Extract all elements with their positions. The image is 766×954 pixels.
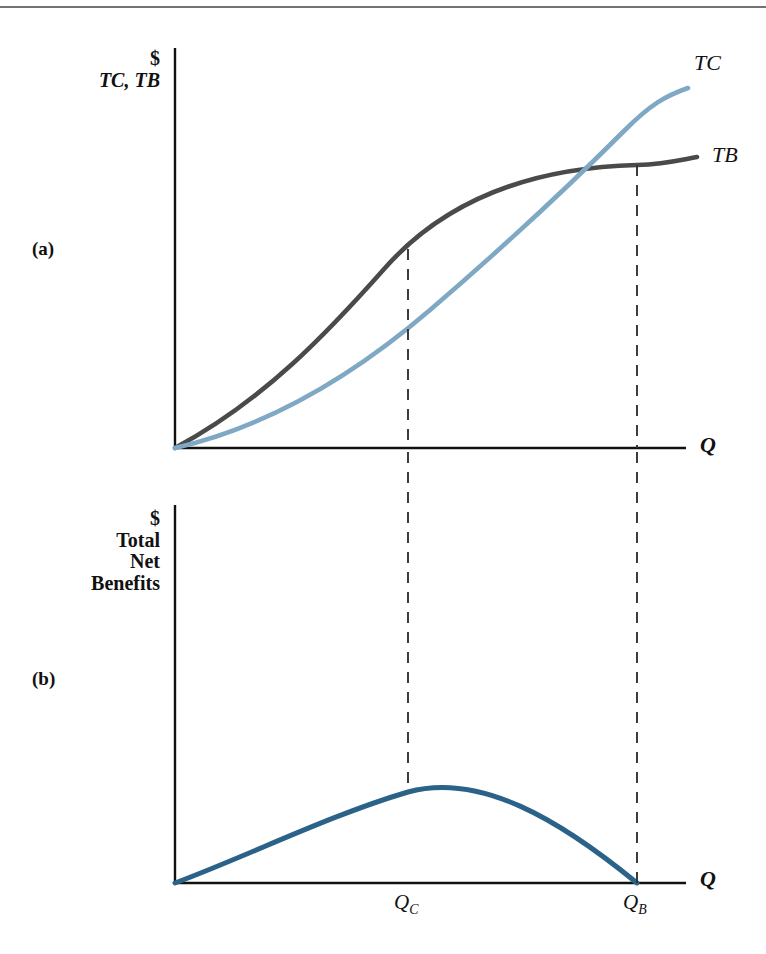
panel-b-plot xyxy=(0,0,766,954)
economics-figure: (a) $ TC, TB TC TB Q (b) $ Total Net Ben… xyxy=(0,0,766,954)
net-benefits-curve xyxy=(175,787,637,883)
